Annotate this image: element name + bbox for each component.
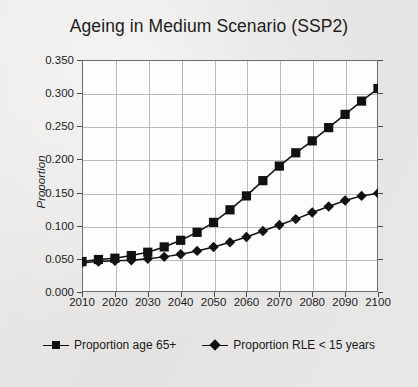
data-point-diamond: [225, 237, 235, 247]
y-axis-tick-mark: [378, 193, 383, 194]
legend-item-proportion-age-65-plus[interactable]: Proportion age 65+: [43, 338, 176, 352]
x-axis-tick-mark: [82, 292, 83, 297]
data-point-diamond: [258, 226, 268, 236]
data-point-square: [209, 218, 218, 227]
data-point-square: [291, 148, 300, 157]
series-line-0: [82, 89, 378, 262]
y-axis-tick-mark: [378, 60, 383, 61]
x-axis-tick-mark: [279, 292, 280, 297]
diamond-marker-icon: [202, 339, 228, 351]
y-axis-tick-label: 0.200: [14, 153, 74, 165]
x-axis-tick-label: 2100: [355, 296, 401, 308]
y-axis-tick-mark: [77, 226, 82, 227]
y-axis-tick-mark: [378, 226, 383, 227]
y-axis-tick-label: 0.300: [14, 87, 74, 99]
data-point-diamond: [159, 252, 169, 262]
x-axis-tick-mark: [115, 292, 116, 297]
x-axis-tick-mark: [246, 292, 247, 297]
data-point-diamond: [291, 214, 301, 224]
data-point-diamond: [175, 249, 185, 259]
data-point-square: [308, 136, 317, 145]
y-axis-tick-mark: [378, 126, 383, 127]
chart-figure: Ageing in Medium Scenario (SSP2) Proport…: [0, 0, 418, 387]
x-axis-tick-mark: [181, 292, 182, 297]
y-axis-tick-mark: [77, 93, 82, 94]
series-plot: [82, 60, 378, 292]
y-axis-tick-label: 0.250: [14, 120, 74, 132]
data-point-diamond: [241, 232, 251, 242]
data-point-square: [242, 191, 251, 200]
y-axis-tick-mark: [77, 259, 82, 260]
data-point-diamond: [192, 246, 202, 256]
data-point-diamond: [307, 207, 317, 217]
y-axis-tick-mark: [77, 193, 82, 194]
data-point-diamond: [356, 191, 366, 201]
data-point-square: [341, 110, 350, 119]
data-point-diamond: [274, 220, 284, 230]
x-axis-tick-mark: [312, 292, 313, 297]
y-axis-tick-mark: [77, 60, 82, 61]
data-point-square: [275, 161, 284, 170]
x-axis-tick-mark: [345, 292, 346, 297]
legend-label: Proportion RLE < 15 years: [233, 338, 375, 352]
y-axis-tick-mark: [378, 159, 383, 160]
y-axis-tick-mark: [378, 259, 383, 260]
y-axis-tick-mark: [77, 126, 82, 127]
data-point-diamond: [340, 195, 350, 205]
chart-legend: Proportion age 65+ Proportion RLE < 15 y…: [0, 338, 418, 352]
x-axis-tick-mark: [214, 292, 215, 297]
legend-label: Proportion age 65+: [74, 338, 176, 352]
chart-title: Ageing in Medium Scenario (SSP2): [0, 16, 418, 37]
data-point-square: [373, 84, 378, 93]
series-line-1: [82, 193, 378, 263]
data-point-square: [225, 205, 234, 214]
data-point-square: [193, 228, 202, 237]
y-axis-tick-mark: [77, 159, 82, 160]
data-point-square: [160, 242, 169, 251]
data-point-square: [357, 97, 366, 106]
y-axis-tick-label: 0.350: [14, 54, 74, 66]
square-marker-icon: [43, 339, 69, 351]
data-point-square: [176, 236, 185, 245]
x-axis-tick-mark: [148, 292, 149, 297]
legend-item-proportion-rle-under-15-years[interactable]: Proportion RLE < 15 years: [202, 338, 375, 352]
data-point-diamond: [208, 242, 218, 252]
y-axis-tick-label: 0.150: [14, 187, 74, 199]
data-point-square: [258, 176, 267, 185]
y-axis-tick-mark: [378, 93, 383, 94]
y-axis-tick-label: 0.050: [14, 253, 74, 265]
data-point-square: [324, 123, 333, 132]
x-axis-tick-mark: [378, 292, 379, 297]
y-axis-tick-label: 0.100: [14, 220, 74, 232]
data-point-diamond: [323, 201, 333, 211]
